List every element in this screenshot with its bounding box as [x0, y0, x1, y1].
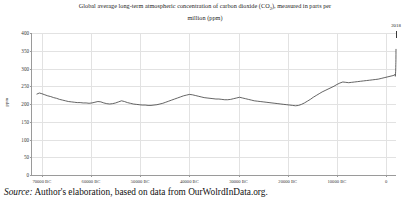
- caption-text: Author's elaboration, based on data from…: [33, 187, 268, 197]
- y-tick-label: 300: [21, 66, 29, 72]
- x-tick-mark: [42, 175, 43, 177]
- plot-area: 050100150200250300350400 70000 BC60000 B…: [31, 33, 396, 176]
- series-line-co2: [37, 49, 396, 105]
- y-tick-label: 150: [21, 119, 29, 125]
- y-tick-label: 350: [21, 48, 29, 54]
- source-caption: Source: Author's elaboration, based on d…: [4, 187, 268, 197]
- x-tick-label: 70000 BC: [32, 179, 51, 184]
- x-tick-label: 20000 BC: [278, 179, 297, 184]
- annotation-2018-tick: [396, 31, 397, 38]
- x-tick-label: 30000 BC: [229, 179, 248, 184]
- chart-title: Global average long-term atmospheric con…: [30, 1, 380, 22]
- x-tick-mark: [189, 175, 190, 177]
- x-tick-mark: [91, 175, 92, 177]
- x-tick-label: 0: [385, 179, 387, 184]
- data-series-co2: [32, 33, 396, 175]
- y-tick-label: 50: [24, 154, 29, 160]
- y-tick-label: 200: [21, 101, 29, 107]
- x-tick-label: 10000 BC: [328, 179, 347, 184]
- x-tick-mark: [386, 175, 387, 177]
- y-tick-label: 100: [21, 137, 29, 143]
- y-tick-mark: [30, 175, 32, 176]
- x-tick-label: 50000 BC: [131, 179, 150, 184]
- y-tick-label: 250: [21, 83, 29, 89]
- y-tick-label: 0: [26, 172, 29, 178]
- caption-source-word: Source:: [4, 187, 33, 197]
- y-tick-label: 400: [21, 30, 29, 36]
- y-axis-label: ppm: [4, 98, 9, 107]
- x-tick-mark: [239, 175, 240, 177]
- chart-title-line2: million (ppm): [187, 14, 222, 21]
- x-tick-mark: [140, 175, 141, 177]
- chart-title-part2: ), measured in parts per: [272, 2, 331, 9]
- x-tick-label: 40000 BC: [180, 179, 199, 184]
- x-tick-mark: [337, 175, 338, 177]
- x-tick-mark: [288, 175, 289, 177]
- x-tick-label: 60000 BC: [82, 179, 101, 184]
- figure: Global average long-term atmospheric con…: [0, 0, 408, 204]
- chart-title-part1: Global average long-term atmospheric con…: [79, 2, 270, 9]
- annotation-2018-label: 2018: [391, 23, 401, 28]
